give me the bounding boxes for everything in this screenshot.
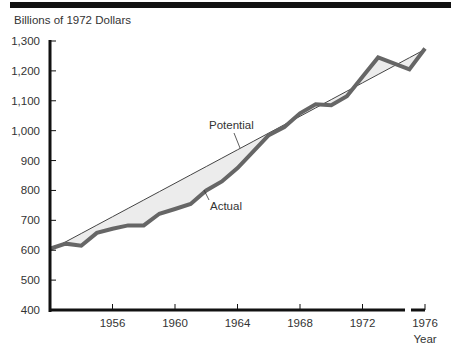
x-tick-label: 1976	[412, 317, 438, 329]
y-tick-label: 700	[21, 214, 40, 226]
x-tick-label: 1972	[350, 317, 376, 329]
y-tick-label: 1,300	[11, 35, 40, 47]
chart-area: 1,3001,2001,1001,00090080070060050040019…	[0, 0, 451, 352]
y-tick-label: 500	[21, 274, 40, 286]
y-tick-label: 800	[21, 184, 40, 196]
actual-annotation: Actual	[210, 200, 242, 212]
y-tick-label: 1,000	[11, 125, 40, 137]
y-tick-label: 900	[21, 155, 40, 167]
x-axis-title: Year	[413, 333, 436, 345]
potential-annotation: Potential	[209, 119, 254, 131]
y-tick-label: 1,100	[11, 95, 40, 107]
potential-leader	[234, 133, 240, 148]
x-tick-label: 1964	[225, 317, 251, 329]
x-tick-label: 1968	[287, 317, 313, 329]
y-tick-label: 600	[21, 244, 40, 256]
x-tick-label: 1960	[162, 317, 188, 329]
y-tick-label: 400	[21, 304, 40, 316]
potential-line	[50, 49, 425, 250]
x-tick-label: 1956	[100, 317, 126, 329]
y-tick-label: 1,200	[11, 65, 40, 77]
